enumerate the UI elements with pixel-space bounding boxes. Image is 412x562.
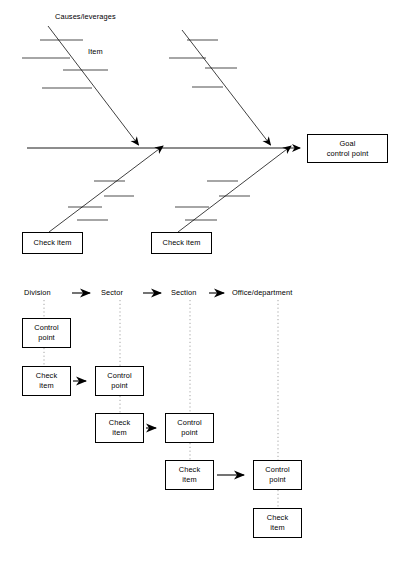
- box-line2: point: [38, 333, 55, 343]
- fishbone-lower-bone-left: [49, 146, 163, 232]
- fishbone-check-item-box-1: Check item: [22, 232, 83, 254]
- flow-stage-label-section: Section: [171, 289, 196, 298]
- fishbone-upper-bone-left: [22, 26, 139, 145]
- flow-box-col3-check-item: Check item: [253, 508, 302, 538]
- box-line2: point: [111, 381, 128, 391]
- box-line1: Control: [34, 323, 59, 333]
- goal-control-point-box: Goal control point: [307, 134, 388, 163]
- item-label: Item: [88, 48, 103, 57]
- flow-box-col3-control-point: Control point: [253, 460, 302, 490]
- bone-line: [182, 30, 271, 145]
- box-line1: Check: [36, 371, 57, 381]
- box-line1: Check: [267, 513, 288, 523]
- box-line2: point: [181, 428, 198, 438]
- fishbone-upper-bone-right: [169, 30, 271, 145]
- bone-line: [48, 26, 139, 145]
- flow-stage-label-sector: Sector: [101, 289, 123, 298]
- flow-stage-label-division: Division: [24, 289, 51, 298]
- flow-column-guides: [44, 300, 278, 508]
- box-line1: Check: [179, 465, 200, 475]
- bone-line: [178, 146, 291, 232]
- check-item-label: Check item: [163, 238, 201, 248]
- box-line2: item: [39, 381, 53, 391]
- box-line2: item: [112, 428, 126, 438]
- fishbone-lower-bone-right: [175, 146, 291, 232]
- box-line2: item: [270, 523, 284, 533]
- box-line2: item: [182, 475, 196, 485]
- flow-box-col2-check-item: Check item: [165, 460, 214, 490]
- flow-box-col2-control-point: Control point: [165, 413, 214, 443]
- goal-box-line2: control point: [327, 149, 369, 159]
- causes-leverages-label: Causes/leverages: [55, 13, 116, 22]
- flow-box-col1-check-item: Check item: [95, 413, 144, 443]
- figure-root: Causes/leverages Item Goal control point…: [0, 0, 412, 562]
- flow-box-col1-control-point: Control point: [95, 366, 144, 396]
- flow-box-col0-control-point: Control point: [22, 318, 71, 348]
- box-line2: point: [269, 475, 286, 485]
- bone-line: [49, 146, 163, 232]
- fishbone-check-item-box-2: Check item: [151, 232, 212, 254]
- flow-stage-label-office-department: Office/department: [232, 289, 292, 298]
- box-line1: Control: [107, 371, 132, 381]
- check-item-label: Check item: [34, 238, 72, 248]
- box-line1: Control: [177, 418, 202, 428]
- goal-box-line1: Goal: [339, 139, 355, 149]
- box-line1: Control: [265, 465, 290, 475]
- box-line1: Check: [109, 418, 130, 428]
- flow-box-col0-check-item: Check item: [22, 366, 71, 396]
